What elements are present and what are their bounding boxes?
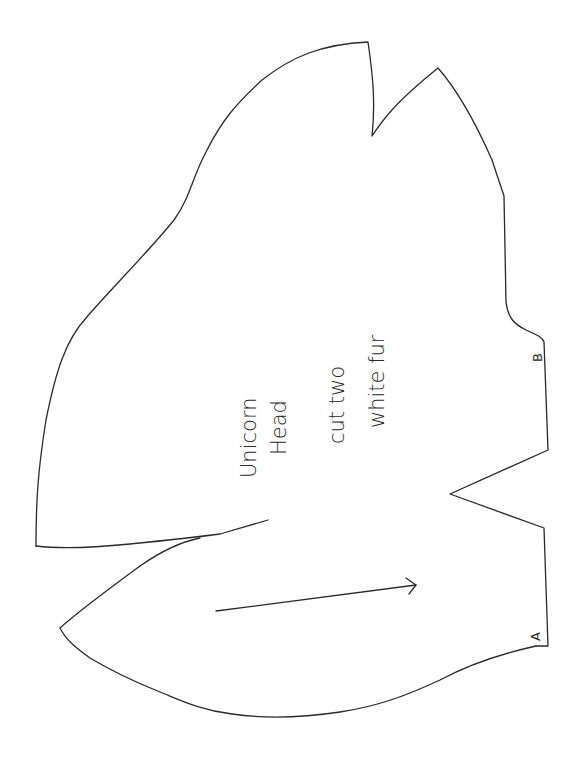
quantity-instruction-label: cut two bbox=[325, 366, 349, 444]
piece-part-label: Head bbox=[267, 400, 291, 455]
piece-name-label: Unicorn bbox=[237, 398, 261, 478]
marker-a: A bbox=[528, 632, 543, 641]
marker-b: B bbox=[530, 353, 545, 362]
head-outline-upper bbox=[36, 42, 548, 646]
pattern-sheet: Unicorn Head cut two white fur B A bbox=[0, 0, 581, 757]
material-instruction-label: white fur bbox=[365, 334, 389, 428]
grain-arrow-icon bbox=[216, 578, 416, 611]
head-outline-lower bbox=[60, 538, 536, 717]
ear-base-line bbox=[36, 520, 268, 548]
